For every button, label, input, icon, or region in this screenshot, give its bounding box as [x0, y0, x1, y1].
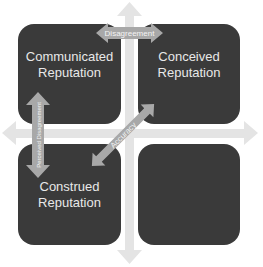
perceived-disagreement-label: Perceived Disagreement	[36, 102, 42, 168]
accuracy-arrow: Accuracy	[86, 98, 161, 173]
accuracy-label: Accuracy	[109, 121, 139, 151]
perceived-disagreement-arrow: Perceived Disagreement	[26, 92, 50, 178]
disagreement-label: Disagreement	[105, 29, 156, 38]
arrows-layer: Disagreement Perceived Disagreement Accu…	[0, 0, 263, 267]
disagreement-arrow: Disagreement	[96, 23, 163, 43]
